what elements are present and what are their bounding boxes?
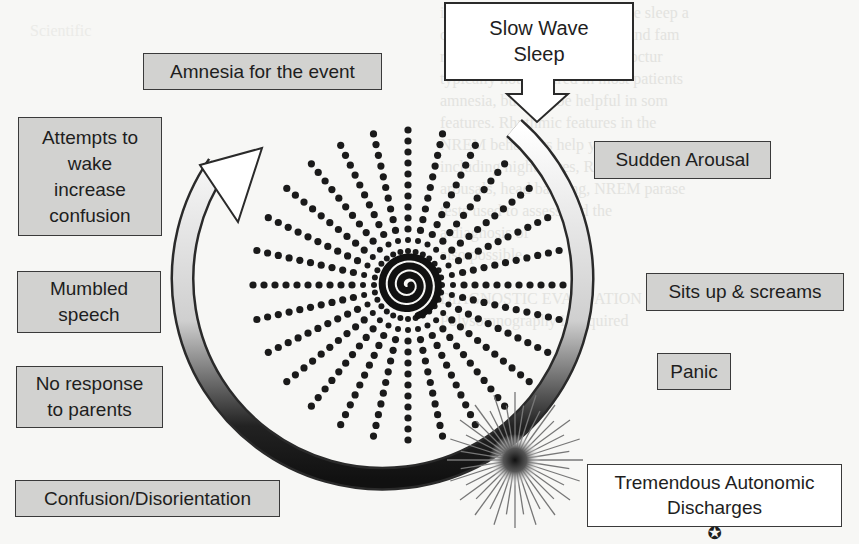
node-label: Confusion/Disorientation — [44, 486, 251, 512]
tremendous-autonomic-discharges-node: Tremendous Autonomic Discharges ✪ — [587, 464, 842, 527]
no-response-node: No response to parents — [16, 366, 163, 428]
spiral-icon — [382, 257, 438, 316]
panic-node: Panic — [657, 353, 731, 390]
node-label: Amnesia for the event — [170, 59, 355, 85]
slow-wave-sleep-node: Slow Wave Sleep — [445, 4, 633, 78]
node-label: Mumbled speech — [50, 276, 128, 328]
confusion-disorientation-node: Confusion/Disorientation — [15, 480, 280, 517]
node-label: Sits up & screams — [668, 279, 821, 305]
cycle-arrow — [183, 128, 583, 479]
star-circle-icon: ✪ — [707, 524, 721, 543]
amnesia-node: Amnesia for the event — [143, 53, 382, 90]
sudden-arousal-node: Sudden Arousal — [594, 141, 771, 179]
node-label: Sudden Arousal — [615, 147, 749, 173]
node-label: Attempts to wake increase confusion — [42, 125, 138, 229]
sits-up-screams-node: Sits up & screams — [646, 273, 844, 311]
attempts-to-wake-node: Attempts to wake increase confusion — [18, 117, 162, 236]
node-label: No response to parents — [36, 371, 144, 423]
mumbled-speech-node: Mumbled speech — [17, 271, 161, 333]
node-label: Panic — [670, 359, 718, 385]
node-label: Slow Wave Sleep — [489, 15, 588, 67]
node-label: Tremendous Autonomic Discharges — [615, 472, 815, 518]
